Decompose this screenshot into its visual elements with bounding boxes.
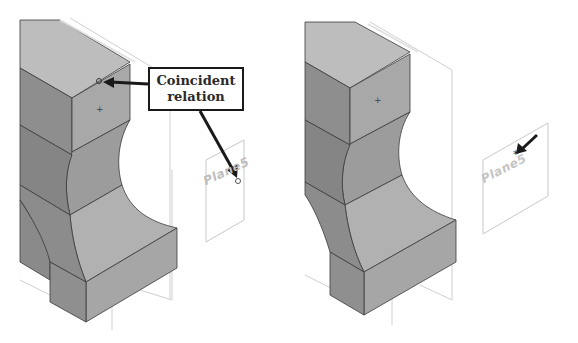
origin-cross-icon: + <box>374 95 382 105</box>
callout-arrow-to-edge <box>110 82 148 84</box>
origin-cross-icon: + <box>96 104 104 114</box>
left-reference-line <box>140 290 172 300</box>
coincident-relation-callout: Coincident relation <box>148 67 244 111</box>
callout-text-line2: relation <box>167 89 225 105</box>
callout-text-line1: Coincident <box>156 73 235 89</box>
right-reference-line <box>420 285 452 300</box>
right-model: + * <box>305 22 548 325</box>
